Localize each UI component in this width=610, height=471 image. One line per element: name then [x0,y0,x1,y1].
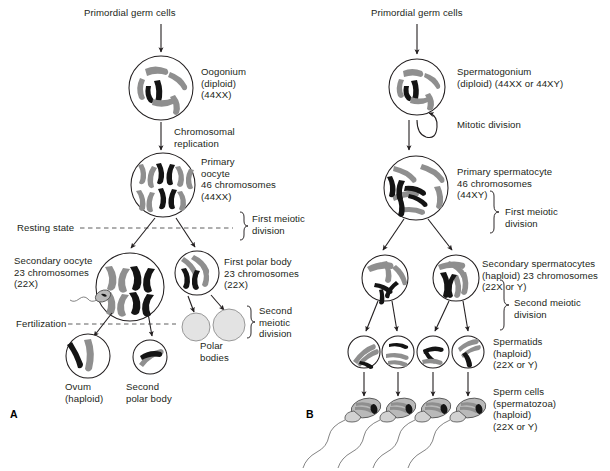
spermatid-4 [452,336,484,368]
first-meiotic-division-label-b: First meiotic division [505,206,558,229]
resting-state-label: Resting state [17,222,74,234]
brace-first-meiotic-division-a [240,212,248,240]
primary-spermatocyte-label: Primary spermatocyte 46 chromosomes (44X… [457,166,552,201]
spermatogonium-label: Spermatogonium (diploid) (44XX or 44XY) [457,66,563,89]
spermatid-3 [417,336,449,368]
gametogenesis-figure: Primordial germ cells Oogonium (diploid)… [0,0,610,471]
primary-oocyte-label: Primary oocyte 46 chromosomes (44XX) [201,156,276,202]
panel-b-id: B [306,408,314,420]
ovum-cell [66,334,110,378]
arrow-to-polar-body-1 [188,296,194,312]
spermatogonium-cell [389,59,445,115]
second-polar-body-label: Second polar body [126,381,172,404]
ovum-label: Ovum (haploid) [65,381,103,404]
secondary-spermatocytes-label: Secondary spermatocytes (haploid) 23 chr… [482,258,598,293]
second-polar-body-cell [133,340,167,374]
polar-body-right [213,309,245,341]
arrow-to-spermatid-3 [435,301,449,331]
first-polar-body-label: First polar body 23 chromosomes (22X) [224,256,299,291]
arrow-to-secondary-oocyte [131,218,155,248]
sperm-cell-1 [303,395,383,468]
arrow-mitotic-division-loop [417,113,437,138]
secondary-spermatocyte-right [433,255,479,301]
panel-b-primordial-germ-cells-label: Primordial germ cells [371,7,463,19]
panel-a-id: A [10,408,18,420]
panel-a-primordial-germ-cells-label: Primordial germ cells [84,7,176,19]
brace-second-meiotic-division-a [247,306,255,338]
primary-spermatocyte-cell [384,156,448,220]
mitotic-division-label: Mitotic division [457,119,521,131]
arrow-to-spermatid-2 [392,301,397,331]
oogonium-cell [129,56,193,120]
spermatids-label: Spermatids (haploid) (22X or Y) [493,336,543,371]
spermatid-2 [382,336,414,368]
first-meiotic-division-label-a: First meiotic division [252,213,305,236]
polar-bodies-label: Polar bodies [200,340,229,363]
first-polar-body-cell [175,251,219,295]
arrow-to-spermatid-1 [366,301,378,331]
second-meiotic-division-label-a: Second meiotic division [259,305,292,340]
primary-oocyte-cell [131,153,195,217]
polar-body-left [182,313,210,341]
sperm-cells-label: Sperm cells (spermatozoa) (haploid) (22X… [493,386,556,432]
fertilization-label: Fertilization [16,318,66,330]
arrow-to-secondary-spermatocyte-right [428,219,452,250]
arrow-to-first-polar-body [176,218,195,247]
secondary-oocyte-label: Secondary oocyte 23 chromosomes (22X) [14,255,92,290]
oogonium-label: Oogonium (diploid) (44XX) [201,66,246,101]
spermatid-1 [348,336,380,369]
arrow-to-secondary-spermatocyte-left [383,219,404,250]
secondary-spermatocyte-left [362,255,408,305]
chromosomal-replication-label: Chromosomal replication [174,126,235,149]
arrow-to-polar-body-2 [211,295,224,310]
panel-b-graphics [303,24,509,468]
second-meiotic-division-label-b: Second meiotic division [514,297,581,320]
arrow-to-spermatid-4 [463,301,468,331]
